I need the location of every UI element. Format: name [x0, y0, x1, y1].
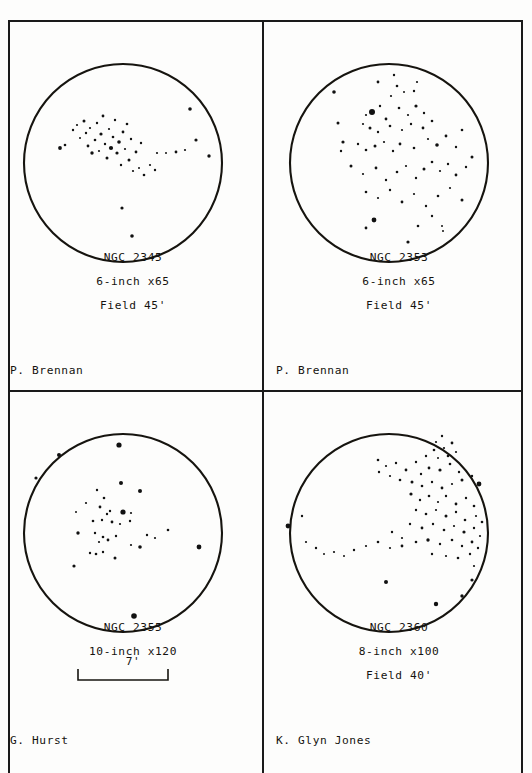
star-dot	[353, 549, 355, 551]
star-dot	[431, 120, 434, 123]
star-dot	[122, 131, 125, 134]
star-dot	[99, 132, 102, 135]
star-dot	[365, 191, 368, 194]
star-dot	[95, 553, 98, 556]
field-spec: Field 40'	[266, 664, 532, 688]
star-dot	[469, 553, 471, 555]
star-dot	[378, 471, 380, 473]
observer-credit: P. Brennan	[276, 364, 349, 377]
star-dot	[108, 128, 110, 130]
field-of-view-circle	[290, 64, 488, 262]
star-dot	[461, 479, 464, 482]
star-dot	[434, 602, 438, 606]
caption-block-ngc-2345: NGC 2345 6-inch x65 Field 45'	[0, 246, 266, 318]
star-dot	[455, 146, 457, 148]
star-dot	[445, 495, 447, 497]
star-dot	[470, 578, 473, 581]
panel-ngc-2360: NGC 2360 8-inch x100 Field 40' K. Glyn J…	[266, 390, 532, 763]
star-dot	[103, 497, 106, 500]
star-dot	[439, 543, 441, 545]
star-dot	[119, 523, 121, 525]
star-dot	[465, 166, 467, 168]
star-dot	[89, 127, 91, 129]
star-dot	[389, 189, 391, 191]
star-dot	[135, 151, 138, 154]
star-dot	[385, 118, 388, 121]
star-dot	[455, 451, 457, 453]
star-dot	[72, 564, 75, 567]
star-dot	[447, 163, 449, 165]
star-dot	[473, 527, 475, 529]
star-field-svg	[266, 20, 532, 270]
star-dot	[403, 91, 405, 93]
star-dot	[431, 553, 433, 555]
sketch-ngc-2345	[0, 20, 266, 270]
star-dot	[473, 505, 476, 508]
star-dot	[57, 453, 61, 457]
star-dot	[111, 521, 114, 524]
star-dot	[447, 455, 450, 458]
star-dot	[83, 120, 86, 123]
star-dot	[457, 557, 460, 560]
star-dot	[197, 545, 202, 550]
star-dot	[362, 173, 364, 175]
star-dot	[79, 137, 81, 139]
star-dot	[109, 510, 111, 512]
star-dot	[415, 541, 418, 544]
field-spec: Field 45'	[0, 294, 266, 318]
star-dot	[416, 81, 418, 83]
star-dot	[154, 537, 156, 539]
star-dot	[350, 165, 353, 168]
star-dot	[451, 483, 453, 485]
star-dot	[441, 487, 444, 490]
star-dot	[443, 447, 445, 449]
star-dot	[369, 109, 375, 115]
object-name: NGC 2355	[0, 616, 266, 640]
star-dot	[389, 547, 391, 549]
instrument-spec: 8-inch x100	[266, 640, 532, 664]
star-dot	[385, 179, 387, 181]
star-dot	[441, 225, 443, 227]
star-dot	[305, 541, 307, 543]
star-dot	[435, 143, 439, 147]
star-dot	[333, 551, 335, 553]
star-dot	[102, 551, 104, 553]
star-dot	[401, 537, 403, 539]
star-dot	[34, 476, 37, 479]
star-dot	[149, 164, 151, 166]
star-dot	[417, 225, 420, 228]
star-dot	[471, 156, 474, 159]
star-points	[332, 74, 473, 244]
star-dot	[442, 230, 444, 232]
star-points	[286, 435, 484, 606]
star-dot	[374, 145, 377, 148]
star-dot	[431, 215, 433, 217]
star-dot	[340, 150, 342, 152]
star-dot	[94, 532, 96, 534]
star-dot	[399, 479, 402, 482]
star-dot	[449, 463, 452, 466]
star-dot	[413, 90, 415, 92]
star-dot	[477, 547, 479, 549]
star-dot	[130, 544, 132, 546]
star-dot	[96, 122, 98, 124]
star-dot	[375, 167, 378, 170]
star-dot	[421, 485, 424, 488]
star-dot	[425, 455, 427, 457]
star-dot	[415, 509, 417, 511]
star-dot	[120, 206, 123, 209]
star-dot	[437, 457, 439, 459]
instrument-spec: 6-inch x65	[266, 270, 532, 294]
star-dot	[399, 143, 402, 146]
star-dot	[109, 146, 113, 150]
star-dot	[413, 147, 416, 150]
star-dot	[124, 148, 126, 150]
star-dot	[129, 520, 131, 522]
star-dot	[391, 531, 393, 533]
star-dot	[143, 174, 146, 177]
star-dot	[401, 545, 404, 548]
star-dot	[120, 164, 122, 166]
star-dot	[92, 520, 95, 523]
star-dot	[410, 123, 412, 125]
star-dot	[377, 459, 380, 462]
